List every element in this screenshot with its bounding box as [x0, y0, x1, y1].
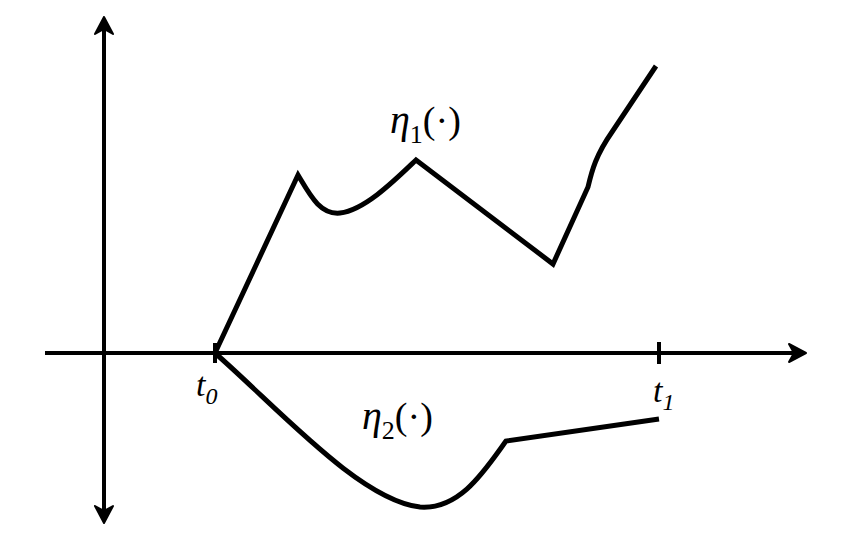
diagram-canvas	[0, 0, 847, 546]
eta2-subscript: 2	[382, 416, 395, 445]
eta1-subscript: 1	[410, 120, 423, 149]
label-eta1: η1(·)	[390, 100, 461, 140]
eta2-argument: (·)	[395, 395, 433, 437]
label-eta2: η2(·)	[362, 396, 433, 436]
eta1-argument: (·)	[423, 99, 461, 141]
eta1-symbol: η	[390, 97, 410, 142]
vertical-axis	[95, 17, 113, 523]
label-t1: t1	[653, 374, 674, 408]
horizontal-axis	[45, 344, 806, 362]
label-t0: t0	[196, 368, 217, 402]
curve-eta2	[215, 353, 659, 507]
eta2-symbol: η	[362, 393, 382, 438]
t1-subscript: 1	[662, 389, 674, 415]
t0-subscript: 0	[205, 383, 217, 409]
